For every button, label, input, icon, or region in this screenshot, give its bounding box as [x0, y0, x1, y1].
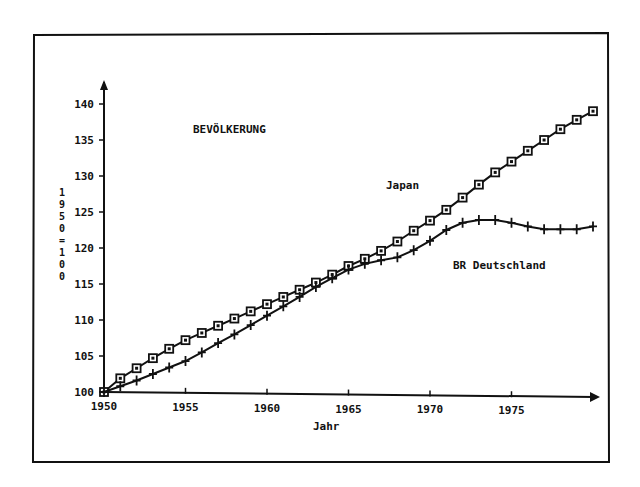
square-marker-dot	[119, 377, 122, 380]
y-tick-label: 140	[74, 98, 94, 111]
square-marker-dot	[217, 324, 220, 327]
plus-marker-icon	[556, 224, 564, 234]
y-tick-label: 120	[74, 242, 94, 255]
plus-marker-icon	[149, 369, 157, 379]
plus-marker-icon	[524, 221, 532, 231]
square-marker-dot	[559, 128, 562, 131]
y-tick-label: 125	[74, 206, 94, 219]
plus-marker-icon	[182, 356, 190, 366]
plus-marker-icon	[508, 218, 516, 228]
square-marker-dot	[526, 149, 529, 152]
plus-marker-icon	[442, 225, 450, 235]
square-marker-dot	[477, 183, 480, 186]
plus-marker-icon	[198, 347, 206, 357]
square-marker-dot	[396, 240, 399, 243]
square-marker-dot	[233, 317, 236, 320]
x-axis-label: Jahr	[313, 420, 340, 433]
chart-title: BEVÖLKERUNG	[193, 122, 266, 136]
series-label-germany: BR Deutschland	[453, 259, 546, 272]
square-marker-dot	[151, 357, 154, 360]
x-tick-label: 1955	[172, 401, 199, 414]
plus-marker-icon	[133, 375, 141, 385]
series-japan	[100, 107, 597, 396]
axes: 1001051101151201251301351401950195519601…	[74, 80, 600, 417]
y-label-char: 0	[59, 271, 65, 282]
plus-marker-icon	[410, 245, 418, 255]
plus-marker-icon	[377, 255, 385, 265]
square-marker-dot	[592, 110, 595, 113]
y-label-char: 0	[59, 259, 65, 270]
series-germany	[100, 215, 597, 397]
y-label-char: 1	[59, 247, 65, 258]
square-marker-dot	[135, 367, 138, 370]
y-axis-label: 1950=100	[59, 187, 65, 282]
x-tick-label: 1975	[498, 404, 525, 417]
square-marker-dot	[461, 196, 464, 199]
square-marker-dot	[168, 347, 171, 350]
x-axis-arrow-icon	[590, 392, 600, 402]
plus-marker-icon	[279, 301, 287, 311]
plus-marker-icon	[247, 320, 255, 330]
y-tick-label: 115	[74, 278, 94, 291]
square-marker-dot	[266, 303, 269, 306]
square-marker-dot	[429, 219, 432, 222]
y-label-char: 1	[59, 187, 65, 198]
series-label-japan: Japan	[386, 179, 419, 192]
series-layer	[100, 107, 597, 397]
square-marker-dot	[494, 171, 497, 174]
square-marker-dot	[298, 288, 301, 291]
square-marker-dot	[510, 160, 513, 163]
plus-marker-icon	[214, 338, 222, 348]
y-tick-label: 110	[74, 314, 94, 327]
y-tick-label: 100	[74, 386, 94, 399]
plus-marker-icon	[165, 363, 173, 373]
plus-marker-icon	[393, 252, 401, 262]
chart: 1001051101151201251301351401950195519601…	[0, 0, 640, 487]
y-label-char: 9	[59, 199, 65, 210]
x-tick-label: 1970	[417, 403, 444, 416]
y-tick-label: 105	[74, 350, 94, 363]
x-tick-label: 1950	[91, 400, 118, 413]
square-marker-dot	[200, 331, 203, 334]
y-tick-label: 130	[74, 170, 94, 183]
plus-marker-icon	[426, 236, 434, 246]
square-marker-dot	[575, 118, 578, 121]
plus-marker-icon	[573, 224, 581, 234]
plus-marker-icon	[540, 224, 548, 234]
y-label-char: 0	[59, 223, 65, 234]
series-line	[104, 111, 593, 392]
plus-marker-icon	[459, 218, 467, 228]
plus-marker-icon	[263, 311, 271, 321]
y-label-char: 5	[59, 211, 65, 222]
x-tick-label: 1965	[335, 403, 362, 416]
square-marker-dot	[184, 339, 187, 342]
series-line	[104, 220, 593, 392]
plus-marker-icon	[230, 329, 238, 339]
square-marker-dot	[282, 295, 285, 298]
plus-marker-icon	[475, 215, 483, 225]
square-marker-dot	[543, 139, 546, 142]
y-label-char: =	[59, 235, 65, 246]
square-marker-dot	[380, 249, 383, 252]
square-marker-dot	[412, 229, 415, 232]
x-tick-label: 1960	[254, 402, 281, 415]
y-tick-label: 135	[74, 134, 94, 147]
plus-marker-icon	[491, 215, 499, 225]
square-marker-dot	[249, 310, 252, 313]
chart-frame	[33, 33, 609, 462]
plus-marker-icon	[589, 221, 597, 231]
y-axis-arrow-icon	[100, 80, 108, 90]
square-marker-dot	[445, 208, 448, 211]
